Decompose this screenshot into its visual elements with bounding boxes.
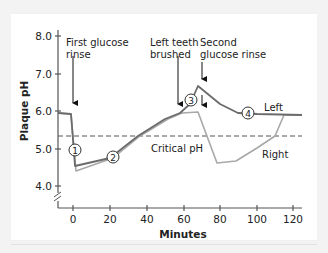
x-tick-40: 40 xyxy=(140,213,153,225)
marker-4: 4 xyxy=(242,107,254,119)
annotation-second-rinse-1: Second xyxy=(200,37,237,48)
x-axis xyxy=(58,205,302,211)
y-tick-5: 5.0 xyxy=(35,143,52,155)
y-tick-labels: 8.0 7.0 6.0 5.0 4.0 xyxy=(35,30,52,192)
marker-1: 1 xyxy=(69,144,81,156)
annotation-first-rinse-2: rinse xyxy=(66,49,91,60)
svg-text:3: 3 xyxy=(188,96,194,106)
svg-text:2: 2 xyxy=(110,153,116,163)
x-tick-labels: 0 20 40 60 80 100 120 xyxy=(70,213,303,225)
y-tick-7: 7.0 xyxy=(35,68,52,80)
axis-break-icon xyxy=(54,192,61,201)
y-axis-title: Plaque pH xyxy=(18,81,30,141)
svg-text:1: 1 xyxy=(72,146,78,156)
marker-3: 3 xyxy=(185,94,197,106)
annotation-brushed-1: Left teeth xyxy=(150,37,198,48)
y-axis xyxy=(55,30,61,208)
x-axis-title: Minutes xyxy=(159,228,206,240)
x-tick-120: 120 xyxy=(283,213,303,225)
legend-left-label: Left xyxy=(264,102,283,113)
marker-2: 2 xyxy=(107,151,119,163)
legend-right-label: Right xyxy=(262,149,288,160)
x-tick-80: 80 xyxy=(213,213,226,225)
plaque-ph-chart: 8.0 7.0 6.0 5.0 4.0 0 20 40 60 80 100 12… xyxy=(0,0,328,253)
annotations: First glucose rinse Left teeth brushed S… xyxy=(66,37,288,160)
annotation-first-rinse-1: First glucose xyxy=(66,37,129,48)
x-tick-60: 60 xyxy=(177,213,190,225)
x-tick-100: 100 xyxy=(247,213,267,225)
critical-ph-label: Critical pH xyxy=(151,143,203,154)
x-tick-20: 20 xyxy=(103,213,116,225)
annotation-brushed-2: brushed xyxy=(150,49,191,60)
y-tick-8: 8.0 xyxy=(35,30,52,42)
x-tick-0: 0 xyxy=(70,213,77,225)
y-tick-4: 4.0 xyxy=(35,180,52,192)
svg-text:4: 4 xyxy=(245,109,251,119)
annotation-second-rinse-2: glucose rinse xyxy=(200,49,266,60)
y-tick-6: 6.0 xyxy=(35,105,52,117)
